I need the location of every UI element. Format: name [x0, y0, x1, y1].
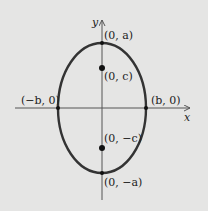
focus-lower-label: (0, −c)	[104, 132, 142, 145]
right-covertex-label: (b, 0)	[151, 94, 181, 107]
right-covertex-point	[144, 106, 148, 110]
focus-upper-label: (0, c)	[104, 70, 133, 83]
bottom-vertex-point	[100, 171, 104, 175]
top-vertex-label: (0, a)	[104, 29, 133, 42]
left-covertex-label: (−b, 0)	[21, 94, 60, 107]
y-axis-label: y	[91, 16, 99, 29]
bottom-vertex-label: (0, −a)	[104, 176, 142, 189]
focus-lower-point	[99, 145, 105, 151]
x-axis-label: x	[184, 111, 191, 124]
ellipse-diagram: y x (0, a) (0, c) (−b, 0) (b, 0) (0, −c)…	[0, 0, 208, 211]
